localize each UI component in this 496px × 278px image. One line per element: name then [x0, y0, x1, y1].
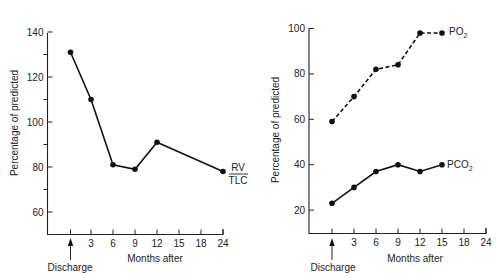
left-axes-lines: [48, 33, 224, 235]
right-y-axis-label: Percentage of predicted: [270, 77, 281, 183]
data-point: [132, 166, 138, 172]
x-tick-label: 15: [436, 237, 448, 248]
data-point: [439, 162, 445, 168]
y-tick-label: 80: [32, 162, 44, 173]
right-discharge-label: Discharge: [310, 262, 355, 273]
y-tick-label: 120: [27, 72, 44, 83]
po2-label-sub: 2: [463, 32, 467, 39]
x-tick-label: 9: [132, 238, 138, 249]
right-x-ticks: 36912151824: [332, 229, 492, 248]
right-chart: 20406080100 Percentage of predicted 3691…: [270, 23, 492, 273]
left-chart: 6080100120140 Percentage of predicted 36…: [9, 27, 248, 274]
x-tick-label: 15: [173, 238, 185, 249]
data-point: [351, 94, 357, 100]
po2-series: [329, 30, 445, 124]
data-point: [329, 200, 335, 206]
data-point: [220, 169, 226, 175]
x-tick-label: 18: [195, 238, 207, 249]
data-point: [329, 119, 335, 125]
po2-label: PO2: [449, 26, 467, 39]
series-line: [71, 52, 224, 171]
x-tick-label: 6: [373, 237, 379, 248]
series-line: [332, 33, 442, 122]
x-tick-label: 24: [480, 237, 492, 248]
data-point: [88, 97, 94, 103]
rv-label: RV: [231, 162, 245, 173]
right-x-axis-label: Months after: [387, 253, 443, 264]
right-y-ticks: 20406080100: [288, 23, 314, 216]
chart-canvas: 6080100120140 Percentage of predicted 36…: [0, 0, 496, 278]
figure: 6080100120140 Percentage of predicted 36…: [0, 0, 496, 278]
x-tick-label: 6: [110, 238, 116, 249]
pco2-label-main: PCO: [447, 159, 469, 170]
series-line: [332, 165, 442, 204]
right-axes-lines: [309, 28, 486, 234]
data-point: [417, 169, 423, 175]
arrow-up-icon: [68, 238, 73, 246]
pco2-series: [329, 162, 445, 206]
left-y-axis: 6080100120140 Percentage of predicted: [9, 27, 223, 235]
x-tick-label: 12: [151, 238, 163, 249]
y-tick-label: 60: [294, 114, 306, 125]
data-point: [154, 139, 160, 145]
left-discharge-label: Discharge: [47, 262, 92, 273]
y-tick-label: 20: [294, 205, 306, 216]
left-y-axis-label: Percentage of predicted: [9, 70, 20, 176]
left-y-ticks: 6080100120140: [27, 27, 53, 218]
x-tick-label: 12: [414, 237, 426, 248]
left-y-minor-ticks: [44, 55, 48, 190]
data-point: [373, 67, 379, 73]
pco2-label: PCO2: [447, 159, 473, 172]
left-x-ticks: 36912151824: [71, 230, 229, 249]
y-tick-label: 100: [288, 23, 305, 34]
data-point: [373, 169, 379, 175]
data-point: [395, 162, 401, 168]
x-tick-label: 18: [458, 237, 470, 248]
x-tick-label: 3: [88, 238, 94, 249]
data-point: [110, 162, 116, 168]
left-x-axis-label: Months after: [127, 253, 183, 264]
y-tick-label: 60: [32, 207, 44, 218]
data-point: [351, 185, 357, 191]
x-tick-label: 9: [395, 237, 401, 248]
y-tick-label: 140: [27, 27, 44, 38]
x-tick-label: 3: [351, 237, 357, 248]
arrow-up-icon: [329, 238, 334, 246]
y-tick-label: 100: [27, 117, 44, 128]
right-discharge-annotation: Discharge: [310, 238, 355, 273]
data-point: [68, 49, 74, 55]
left-discharge-annotation: Discharge: [47, 238, 92, 273]
tlc-label: TLC: [229, 175, 248, 186]
po2-label-main: PO: [449, 26, 464, 37]
data-point: [395, 62, 401, 68]
rv-tlc-series: [68, 49, 226, 174]
x-tick-label: 24: [217, 238, 229, 249]
y-tick-label: 80: [294, 68, 306, 79]
rv-tlc-label: RV TLC: [229, 162, 248, 186]
data-point: [417, 30, 423, 36]
pco2-label-sub: 2: [469, 165, 473, 172]
data-point: [439, 30, 445, 36]
y-tick-label: 40: [294, 159, 306, 170]
